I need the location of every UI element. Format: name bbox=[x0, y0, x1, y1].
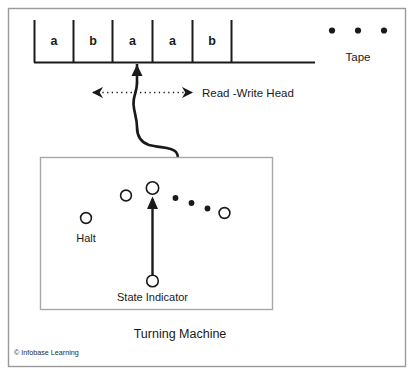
state-ellipsis-dot bbox=[205, 206, 211, 212]
tape-cell-symbol: b bbox=[208, 34, 216, 48]
tape-cell-symbol: a bbox=[169, 34, 177, 48]
state-circle bbox=[121, 190, 132, 201]
halt-state-circle bbox=[81, 213, 92, 224]
tape-cell-symbol: a bbox=[129, 34, 137, 48]
tape-label: Tape bbox=[346, 51, 371, 63]
state-indicator-label: State Indicator bbox=[117, 291, 188, 303]
copyright-label: © Infobase Learning bbox=[14, 348, 79, 357]
state-circle-current bbox=[146, 182, 158, 194]
machine-box-group: Halt State Indicator bbox=[41, 158, 273, 310]
state-circle bbox=[219, 208, 230, 219]
state-ellipsis-dot bbox=[189, 200, 195, 206]
tape-continuation-dot bbox=[355, 27, 361, 33]
state-indicator-circle bbox=[147, 275, 159, 287]
turing-machine-figure: a b a a b Tape bbox=[0, 0, 420, 379]
figure-title: Turning Machine bbox=[134, 327, 227, 341]
halt-label: Halt bbox=[76, 232, 96, 244]
figure-canvas: a b a a b Tape bbox=[0, 0, 420, 379]
tape-continuation-dot bbox=[329, 27, 335, 33]
state-ellipsis-dot bbox=[173, 195, 179, 201]
tape-cell-symbol: a bbox=[51, 34, 59, 48]
tape-continuation-dot bbox=[381, 27, 387, 33]
tape-cell-symbol: b bbox=[89, 34, 97, 48]
read-write-head-label: Read -Write Head bbox=[202, 87, 294, 99]
